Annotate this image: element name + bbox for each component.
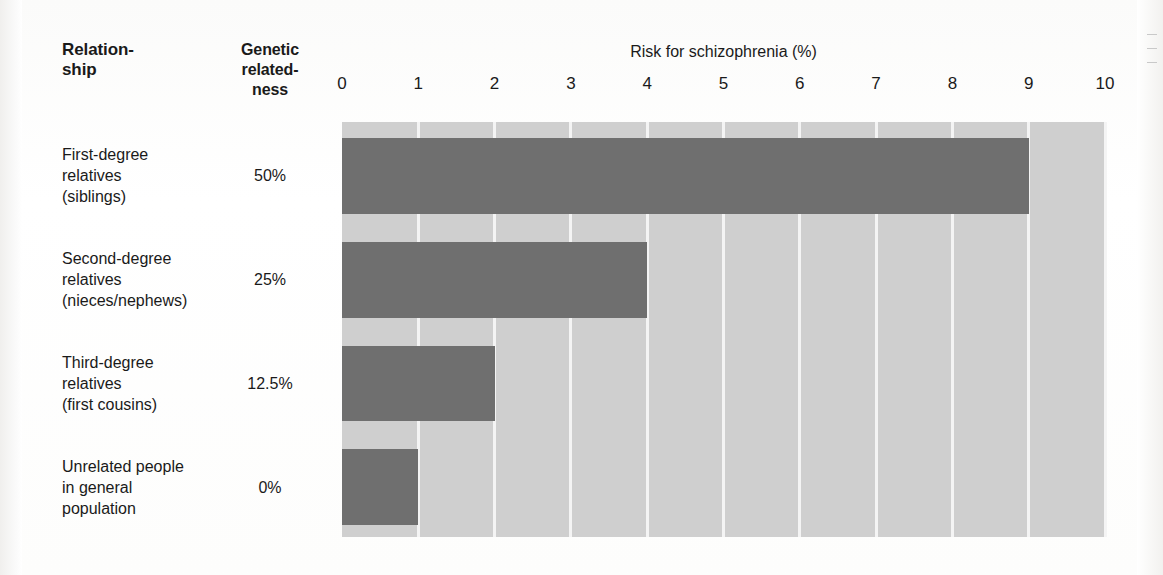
x-axis-tick-label: 5	[719, 74, 728, 94]
row-label-line: (nieces/nephews)	[62, 292, 187, 309]
x-axis-tick-label: 9	[1024, 74, 1033, 94]
bar	[342, 242, 647, 318]
scan-margin-mark	[1147, 62, 1157, 63]
x-axis-tick-label: 2	[490, 74, 499, 94]
row-label-line: population	[62, 500, 136, 517]
row-label-line: (siblings)	[62, 188, 126, 205]
row-value-genetic-relatedness: 50%	[215, 165, 325, 186]
scan-edge-right	[1137, 0, 1163, 575]
bar	[342, 449, 418, 525]
bar	[342, 138, 1029, 214]
row-label-relationship: First-degreerelatives(siblings)	[62, 144, 222, 207]
bar	[342, 346, 495, 422]
x-axis-tick-label: 8	[948, 74, 957, 94]
x-axis-tick-label: 1	[414, 74, 423, 94]
column-header-relationship: Relation-ship	[62, 40, 212, 80]
x-axis: 012345678910	[342, 74, 1105, 100]
x-axis-tick-label: 10	[1096, 74, 1115, 94]
column-header-genetic-relatedness: Geneticrelated-ness	[215, 40, 325, 100]
scan-margin-mark	[1147, 34, 1157, 35]
row-label-line: Second-degree	[62, 250, 171, 267]
row-label-line: Unrelated people	[62, 458, 184, 475]
row-label-line: in general	[62, 479, 132, 496]
x-axis-tick-label: 4	[642, 74, 651, 94]
row-label-line: First-degree	[62, 146, 148, 163]
row-label-line: relatives	[62, 271, 122, 288]
scan-edge-left	[0, 0, 22, 575]
row-label-line: relatives	[62, 167, 122, 184]
row-value-genetic-relatedness: 25%	[215, 269, 325, 290]
x-axis-tick-label: 0	[337, 74, 346, 94]
chart-title: Risk for schizophrenia (%)	[342, 43, 1105, 61]
row-label-relationship: Second-degreerelatives(nieces/nephews)	[62, 248, 222, 311]
x-axis-tick-label: 6	[795, 74, 804, 94]
x-axis-tick-label: 3	[566, 74, 575, 94]
row-label-line: relatives	[62, 375, 122, 392]
row-label-line: (first cousins)	[62, 396, 157, 413]
row-label-relationship: Third-degreerelatives(first cousins)	[62, 352, 222, 415]
gridline	[1104, 122, 1107, 537]
scan-margin-mark	[1147, 48, 1157, 49]
row-value-genetic-relatedness: 12.5%	[215, 373, 325, 394]
row-label-line: Third-degree	[62, 354, 154, 371]
plot-area	[342, 122, 1105, 537]
x-axis-tick-label: 7	[871, 74, 880, 94]
row-value-genetic-relatedness: 0%	[215, 477, 325, 498]
row-label-relationship: Unrelated peoplein generalpopulation	[62, 456, 222, 519]
